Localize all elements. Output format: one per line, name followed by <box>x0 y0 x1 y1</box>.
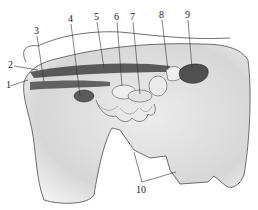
label-1: 1 <box>6 80 11 90</box>
label-5: 5 <box>94 12 99 22</box>
organ-4 <box>74 90 94 102</box>
label-9: 9 <box>185 10 190 20</box>
label-6: 6 <box>114 12 119 22</box>
label-10: 10 <box>136 185 146 195</box>
label-4: 4 <box>68 14 73 24</box>
label-7: 7 <box>130 12 135 22</box>
label-3: 3 <box>34 26 39 36</box>
label-8: 8 <box>159 10 164 20</box>
label-2: 2 <box>8 60 13 70</box>
